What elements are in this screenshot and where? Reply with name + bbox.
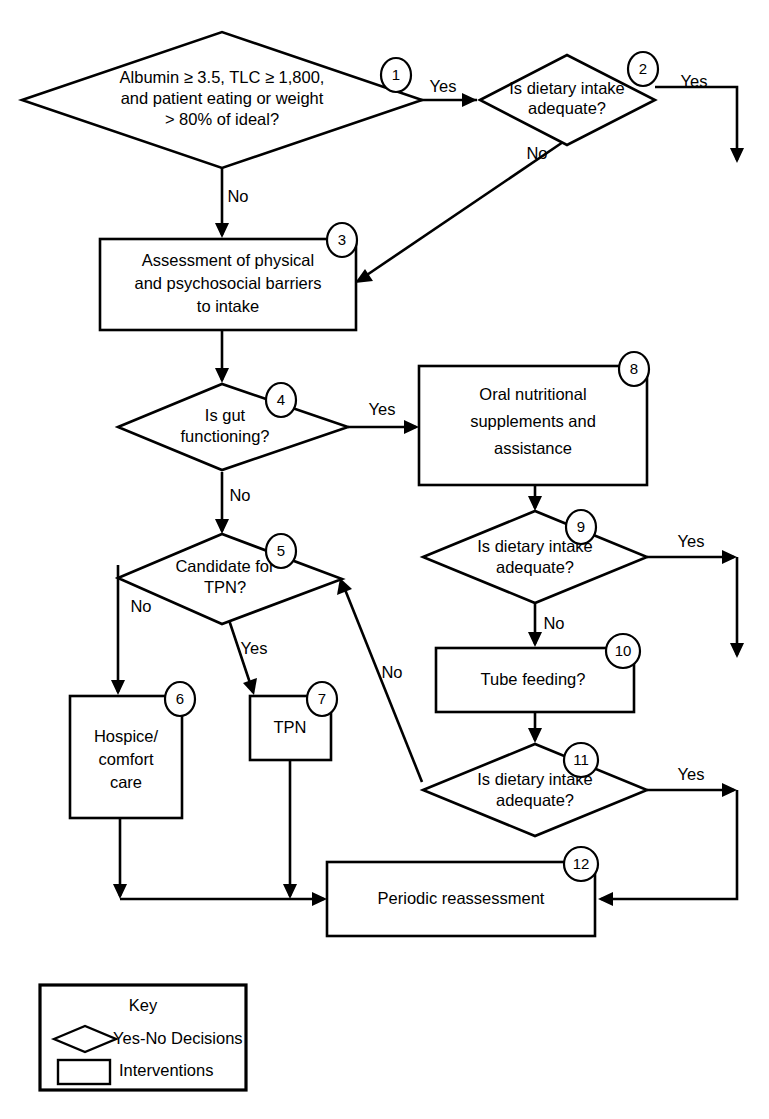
node-12-number: 12 <box>573 855 590 872</box>
node-5-number: 5 <box>277 542 285 559</box>
node-10-line-1: Tube feeding? <box>481 670 586 688</box>
node-7[interactable]: TPN 7 <box>250 682 337 760</box>
node-8-line-2: supplements and <box>470 412 596 430</box>
node-5-line-1: Candidate for <box>175 557 275 575</box>
node-9-number: 9 <box>577 518 585 535</box>
node-3-line-3: to intake <box>197 297 259 315</box>
node-12[interactable]: Periodic reassessment 12 <box>327 847 598 936</box>
node-11-number: 11 <box>573 751 589 768</box>
node-6-line-1: Hospice/ <box>94 727 159 745</box>
node-1-line-3: > 80% of ideal? <box>165 110 279 128</box>
edge-rail-to-12 <box>598 790 737 906</box>
node-3-line-2: and psychosocial barriers <box>134 274 321 292</box>
edge-label-9-yes: Yes <box>678 532 705 550</box>
node-8[interactable]: Oral nutritional supplements and assista… <box>419 352 649 485</box>
node-1-number: 1 <box>392 66 400 83</box>
node-4[interactable]: Is gut functioning? 4 <box>118 383 348 470</box>
key-legend: Key Yes-No Decisions Interventions <box>40 985 246 1090</box>
node-11-line-2: adequate? <box>496 791 574 809</box>
edge-10-to-11 <box>528 712 542 743</box>
node-10[interactable]: Tube feeding? 10 <box>436 634 640 712</box>
edge-label-11-yes: Yes <box>678 765 705 783</box>
edge-11-no-to-5 <box>337 578 422 782</box>
edge-label-9-no: No <box>543 614 564 632</box>
node-8-number: 8 <box>630 360 638 377</box>
edge-bottom-merge-to-12 <box>120 892 327 906</box>
edge-label-5-no: No <box>130 597 151 615</box>
node-7-number: 7 <box>318 690 326 707</box>
node-6-number: 6 <box>176 690 184 707</box>
node-4-number: 4 <box>277 391 285 408</box>
key-title: Key <box>129 996 158 1014</box>
node-2-line-2: adequate? <box>528 99 606 117</box>
edge-4-no-to-5 <box>215 472 229 534</box>
node-6[interactable]: Hospice/ comfort care 6 <box>70 682 195 818</box>
key-intervention-icon <box>58 1060 110 1084</box>
node-12-line-1: Periodic reassessment <box>378 889 545 907</box>
edge-3-to-4 <box>215 330 229 383</box>
edge-label-2-yes: Yes <box>681 72 708 90</box>
edge-4-yes-to-8 <box>348 420 419 434</box>
node-3[interactable]: Assessment of physical and psychosocial … <box>100 223 357 330</box>
node-9-line-2: adequate? <box>496 558 574 576</box>
node-8-line-1: Oral nutritional <box>479 385 586 403</box>
node-1-line-2: and patient eating or weight <box>121 89 324 107</box>
edge-label-11-no: No <box>381 663 402 681</box>
edge-label-1-yes: Yes <box>430 77 457 95</box>
node-8-line-3: assistance <box>494 439 572 457</box>
node-9[interactable]: Is dietary intake adequate? 9 <box>423 510 647 603</box>
key-intervention-label: Interventions <box>119 1061 213 1079</box>
node-3-line-1: Assessment of physical <box>142 251 314 269</box>
edge-label-5-yes: Yes <box>241 639 268 657</box>
edge-6-to-12 <box>113 818 127 899</box>
edge-9-no-to-10 <box>528 604 542 647</box>
edge-11-yes-to-rail <box>647 783 737 797</box>
node-6-line-3: care <box>110 773 142 791</box>
node-2[interactable]: Is dietary intake adequate? 2 <box>480 52 658 145</box>
node-4-line-1: Is gut <box>205 406 246 424</box>
node-6-line-2: comfort <box>98 750 153 768</box>
node-4-line-2: functioning? <box>181 427 270 445</box>
node-1[interactable]: Albumin ≥ 3.5, TLC ≥ 1,800, and patient … <box>22 32 422 168</box>
flowchart-canvas: Albumin ≥ 3.5, TLC ≥ 1,800, and patient … <box>0 0 769 1119</box>
node-5-line-2: TPN? <box>204 578 246 596</box>
edge-label-1-no: No <box>227 187 248 205</box>
edge-2-yes-to-rail <box>655 87 744 163</box>
edge-5-no-to-6 <box>111 565 125 695</box>
flowchart-diagram: Albumin ≥ 3.5, TLC ≥ 1,800, and patient … <box>0 0 769 1119</box>
node-2-number: 2 <box>639 60 647 77</box>
node-3-number: 3 <box>338 231 346 248</box>
edge-label-2-no: No <box>526 144 547 162</box>
edge-7-to-12 <box>283 760 297 899</box>
edge-8-to-9 <box>528 485 542 511</box>
node-11[interactable]: Is dietary intake adequate? 11 <box>423 743 647 836</box>
node-10-number: 10 <box>615 642 632 659</box>
node-5[interactable]: Candidate for TPN? 5 <box>118 534 342 624</box>
edge-9-yes-to-rail <box>647 550 737 564</box>
edge-label-4-yes: Yes <box>369 400 396 418</box>
node-2-line-1: Is dietary intake <box>509 79 625 97</box>
key-decision-label: Yes-No Decisions <box>113 1029 243 1047</box>
node-7-line-1: TPN <box>274 718 307 736</box>
edge-label-4-no: No <box>229 486 250 504</box>
edge-right-rail-segment <box>730 557 744 658</box>
node-1-line-1: Albumin ≥ 3.5, TLC ≥ 1,800, <box>120 68 325 86</box>
